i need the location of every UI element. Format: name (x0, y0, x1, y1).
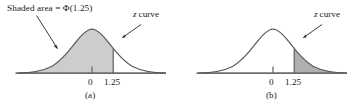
z-curve-label-a: zcurve (133, 10, 159, 19)
tick-label-zero-b: 0 (269, 78, 274, 87)
z-curve-arrow (122, 25, 141, 39)
z-curve-label-a-variable: z (133, 9, 137, 19)
z-curve-label-b: zcurve (314, 10, 340, 19)
panel-caption-a: (a) (85, 91, 95, 100)
z-curve-label-a-word: curve (139, 9, 159, 19)
tick-label-1-25-a: 1.25 (104, 78, 120, 87)
panel-b: zcurve 0 1.25 (b) (181, 0, 362, 109)
z-curve-label-b-word: curve (320, 9, 340, 19)
panel-a: Shaded area = Φ(1.25) zcurve 0 1.25 (a) (0, 0, 181, 109)
z-curve-label-b-variable: z (314, 9, 318, 19)
shaded-area-left (22, 29, 114, 73)
tick-label-zero-a: 0 (88, 78, 93, 87)
z-curve-outline (199, 29, 347, 73)
annotation-arrow (37, 16, 58, 50)
panel-caption-b: (b) (266, 91, 277, 100)
shaded-area-annotation: Shaded area = Φ(1.25) (7, 4, 92, 13)
z-curve-arrow (303, 25, 322, 39)
tick-label-1-25-b: 1.25 (285, 78, 301, 87)
normal-curve-figure: Shaded area = Φ(1.25) zcurve 0 1.25 (a) (0, 0, 362, 109)
